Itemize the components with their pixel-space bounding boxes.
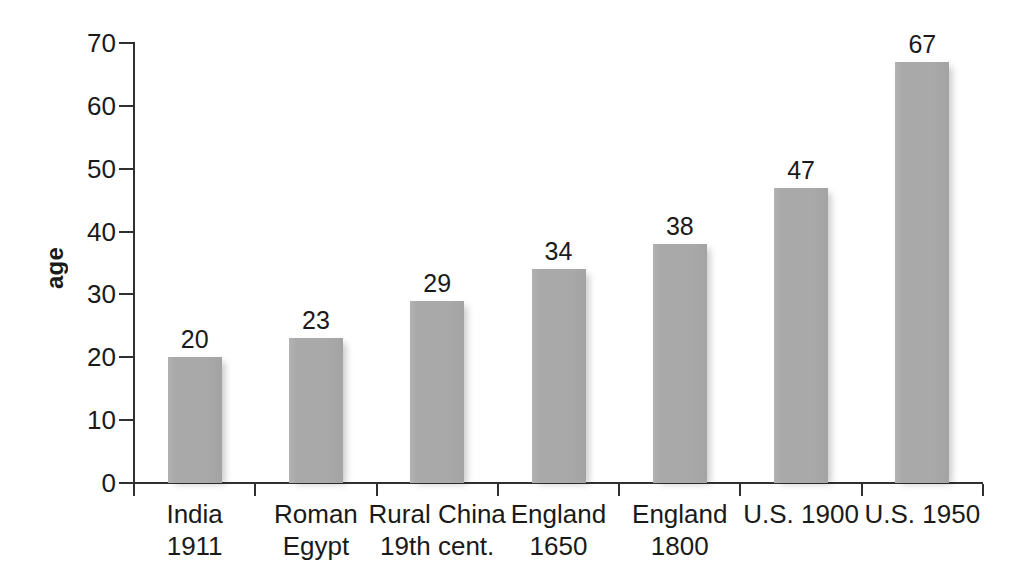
y-axis-tick xyxy=(119,293,134,295)
bar-chart-figure: age 010203040506070 20India 191123Roman … xyxy=(0,0,1035,583)
y-axis-tick-label: 70 xyxy=(0,30,116,56)
x-axis-tick xyxy=(376,484,378,496)
y-axis-tick xyxy=(119,231,134,233)
bar[interactable] xyxy=(532,269,586,483)
bar[interactable] xyxy=(774,188,828,483)
y-axis-tick-label: 50 xyxy=(0,156,116,182)
bar-value-label: 34 xyxy=(499,239,619,264)
x-axis-tick xyxy=(739,484,741,496)
x-axis-tick xyxy=(861,484,863,496)
bar-value-label: 67 xyxy=(862,32,982,57)
y-axis-tick xyxy=(119,105,134,107)
y-axis-tick xyxy=(119,482,134,484)
y-axis-tick-label: 60 xyxy=(0,93,116,119)
x-axis-tick xyxy=(618,484,620,496)
y-axis-tick xyxy=(119,42,134,44)
x-axis-tick xyxy=(254,484,256,496)
y-axis-tick-label: 10 xyxy=(0,407,116,433)
y-axis-tick xyxy=(119,356,134,358)
bar-value-label: 23 xyxy=(256,308,376,333)
x-axis-tick xyxy=(133,484,135,496)
bar[interactable] xyxy=(289,338,343,483)
x-axis-tick xyxy=(497,484,499,496)
y-axis-tick-label: 30 xyxy=(0,281,116,307)
bar-value-label: 29 xyxy=(377,271,497,296)
y-axis-line xyxy=(133,42,135,484)
bar[interactable] xyxy=(653,244,707,483)
y-axis-tick-label: 40 xyxy=(0,219,116,245)
y-axis-tick-label: 0 xyxy=(0,470,116,496)
bar-value-label: 47 xyxy=(741,158,861,183)
bar[interactable] xyxy=(895,62,949,483)
x-axis-tick xyxy=(982,484,984,496)
y-axis-tick-label: 20 xyxy=(0,344,116,370)
y-axis-tick xyxy=(119,168,134,170)
x-axis-category-label: U.S. 1950 xyxy=(842,498,1002,530)
bar[interactable] xyxy=(410,301,464,483)
bar-value-label: 20 xyxy=(135,327,255,352)
bar-value-label: 38 xyxy=(620,214,740,239)
bar[interactable] xyxy=(168,357,222,483)
y-axis-tick xyxy=(119,419,134,421)
